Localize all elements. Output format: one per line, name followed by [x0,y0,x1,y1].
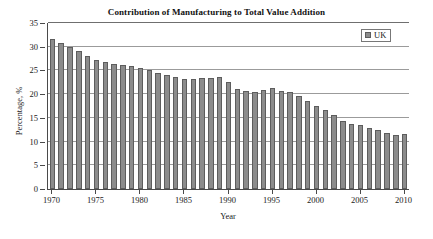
bar [226,82,231,189]
y-tick-mark-35 [40,23,45,24]
x-tick-label-1995: 1995 [263,195,280,205]
x-tick-label-2005: 2005 [351,195,368,205]
y-tick-mark-30 [40,47,45,48]
bar [402,134,407,189]
bar [199,78,204,189]
x-tick-label-1980: 1980 [131,195,148,205]
bar [279,91,284,189]
x-tick-mark-1975 [95,190,96,194]
x-tick-mark-2010 [404,190,405,194]
bar [111,64,116,189]
x-axis: 197019751980198519901995200020052010 [47,190,409,212]
bar [296,96,301,189]
bar [103,62,108,189]
plot-area [47,23,409,190]
bar [261,90,266,189]
bar [129,66,134,189]
y-tick-label-0: 0 [34,184,38,194]
y-tick-label-10: 10 [30,137,39,147]
bar [331,115,336,189]
bar [94,60,99,189]
bar [138,68,143,189]
y-axis-title: Percentage, % [14,61,24,161]
bar [85,56,90,189]
bar [314,106,319,189]
bar [208,78,213,189]
bar [155,73,160,189]
x-tick-label-2000: 2000 [307,195,324,205]
x-tick-mark-1985 [183,190,184,194]
x-tick-mark-1980 [139,190,140,194]
chart-title: Contribution of Manufacturing to Total V… [0,7,433,17]
x-tick-label-1990: 1990 [219,195,236,205]
y-tick-mark-10 [40,142,45,143]
bar [323,110,328,189]
bar [191,79,196,189]
y-tick-label-35: 35 [30,18,39,28]
bar [58,43,63,189]
y-tick-mark-5 [40,165,45,166]
bar [252,92,257,189]
bar [270,88,275,189]
bar [50,39,55,189]
bar [393,135,398,189]
x-tick-label-1975: 1975 [87,195,104,205]
bar [164,75,169,189]
x-axis-title: Year [47,211,409,221]
legend-swatch-uk [365,32,371,38]
x-tick-mark-1995 [272,190,273,194]
bar [358,125,363,189]
y-tick-label-30: 30 [30,42,39,52]
x-tick-mark-2005 [360,190,361,194]
bar [182,79,187,189]
y-tick-label-5: 5 [34,160,38,170]
bar [67,47,72,189]
y-tick-mark-15 [40,118,45,119]
chart-legend: UK [361,29,391,42]
bar [76,51,81,189]
x-tick-label-1970: 1970 [43,195,60,205]
y-tick-label-15: 15 [30,113,39,123]
y-tick-mark-20 [40,94,45,95]
bar [305,101,310,189]
bar-series-uk [48,23,409,189]
y-tick-label-25: 25 [30,65,39,75]
bar [287,92,292,189]
y-tick-label-20: 20 [30,89,39,99]
bar [217,77,222,189]
bar [243,91,248,189]
bar [173,77,178,189]
chart-figure: Contribution of Manufacturing to Total V… [0,0,433,239]
bar [375,130,380,189]
bar [349,124,354,189]
bar [367,128,372,189]
x-tick-label-1985: 1985 [175,195,192,205]
bar [384,133,389,189]
y-tick-mark-0 [40,189,45,190]
x-tick-mark-1970 [51,190,52,194]
bar [340,121,345,189]
legend-label-uk: UK [374,31,386,40]
bar [147,70,152,189]
x-tick-mark-2000 [316,190,317,194]
bar [120,65,125,189]
x-tick-label-2010: 2010 [395,195,412,205]
y-tick-mark-25 [40,70,45,71]
bar [235,89,240,189]
x-tick-mark-1990 [228,190,229,194]
